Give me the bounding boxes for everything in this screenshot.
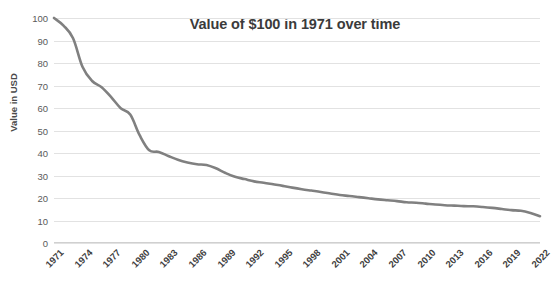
x-tick-label: 1977: [100, 247, 123, 270]
y-tick-label: 10: [37, 215, 48, 226]
x-tick-label: 1989: [215, 247, 238, 270]
y-tick-label: 100: [32, 13, 48, 24]
x-tick-label: 1980: [129, 247, 152, 270]
y-tick-label: 40: [37, 148, 48, 159]
x-tick-label: 2001: [329, 247, 352, 270]
x-tick-label: 2013: [443, 247, 466, 270]
x-tick-label: 1998: [300, 247, 323, 270]
y-tick-label: 30: [37, 170, 48, 181]
x-tick-label: 2004: [358, 247, 381, 270]
y-tick-label: 70: [37, 80, 48, 91]
x-tick-label: 1995: [272, 247, 295, 270]
series-path: [54, 18, 540, 216]
series-line-value-in-usd: [54, 18, 540, 243]
y-tick-label: 60: [37, 103, 48, 114]
y-tick-label: 90: [37, 35, 48, 46]
x-tick-label: 1974: [72, 247, 95, 270]
x-tick-label: 2010: [415, 247, 438, 270]
x-tick-label: 2007: [386, 247, 409, 270]
y-tick-label: 80: [37, 58, 48, 69]
x-tick-label: 1986: [186, 247, 209, 270]
x-tick-label: 1971: [43, 247, 66, 270]
x-tick-label: 2022: [529, 247, 552, 270]
y-tick-label: 0: [43, 238, 48, 249]
x-tick-label: 2016: [472, 247, 495, 270]
x-tick-label: 1992: [243, 247, 266, 270]
plot-area: 1009080706050403020100 19711974197719801…: [54, 18, 540, 243]
x-tick-label: 1983: [157, 247, 180, 270]
x-tick-label: 2019: [500, 247, 523, 270]
y-tick-label: 20: [37, 193, 48, 204]
gridline: [54, 243, 540, 244]
chart-container: Value of $100 in 1971 over time Value in…: [0, 0, 556, 297]
y-axis-title: Value in USD: [8, 60, 19, 146]
y-tick-label: 50: [37, 125, 48, 136]
